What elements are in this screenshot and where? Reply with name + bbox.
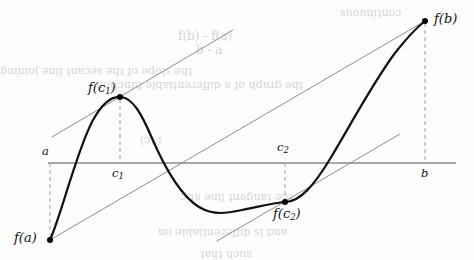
point-fb [422, 18, 428, 24]
label-fc1-close: ) [111, 80, 116, 95]
label-fc2-close: ) [296, 206, 301, 221]
point-fc2 [282, 199, 288, 205]
label-f-of-c2: f(c2) [273, 207, 301, 222]
label-fc1-open: f(c [88, 80, 105, 95]
secant-line-ab [50, 21, 425, 240]
label-c2-subscript: 2 [283, 145, 288, 155]
point-fa [47, 237, 53, 243]
point-fc1 [117, 94, 123, 100]
label-fc2-open: f(c [273, 206, 290, 221]
label-c1: c1 [112, 168, 124, 181]
label-c1-subscript: 1 [118, 171, 123, 181]
label-b: b [421, 168, 428, 180]
label-f-of-c1: f(c1) [88, 81, 116, 96]
label-f-of-b: f(b) [434, 12, 457, 25]
label-a: a [42, 146, 49, 158]
label-c2: c2 [277, 142, 289, 155]
tangent-line-c1 [52, 30, 233, 137]
label-f-of-a: f(a) [14, 231, 37, 244]
mvt-figure: f(b) - f(a)b - athe slope of the secant … [0, 0, 474, 260]
figure-canvas [0, 0, 474, 260]
